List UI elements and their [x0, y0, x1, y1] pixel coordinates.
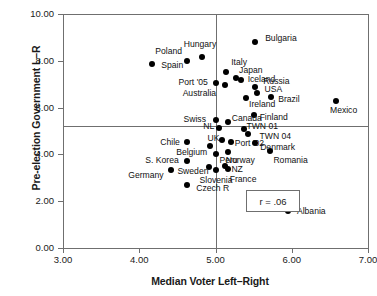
data-point — [252, 140, 258, 146]
data-point-label: Denmark — [260, 143, 295, 152]
y-axis-tick-label: 0.00 — [36, 243, 55, 253]
x-axis-tick — [292, 249, 293, 253]
data-point-label: Romania — [273, 156, 307, 165]
data-point-label: Spain — [161, 61, 183, 70]
data-point-label: Port '05 — [179, 78, 208, 87]
data-point-label: Hungary — [184, 40, 216, 49]
x-axis-tick — [368, 249, 369, 253]
x-axis-tick-label: 6.00 — [283, 255, 302, 265]
data-point-label: NZ — [231, 165, 242, 174]
data-point-label: S. Korea — [145, 156, 178, 165]
x-axis-tick-label: 5.00 — [206, 255, 225, 265]
data-point — [207, 143, 213, 149]
axis-frame-left — [63, 14, 64, 249]
data-point — [223, 69, 229, 75]
data-point — [184, 182, 190, 188]
y-axis-tick-label: 6.00 — [36, 103, 55, 113]
x-axis-tick — [139, 249, 140, 253]
y-axis-tick: 10.00 — [58, 14, 63, 15]
data-point-label: Chile — [160, 138, 180, 147]
data-point-label: Mexico — [330, 106, 357, 115]
data-point-label: Czech R — [196, 184, 229, 193]
data-point — [225, 166, 231, 172]
data-point — [267, 148, 273, 154]
data-point — [199, 54, 205, 60]
x-axis-title: Median Voter Left–Right — [48, 275, 372, 287]
data-point-label: Belgium — [176, 148, 207, 157]
data-point-label: Finland — [260, 113, 288, 122]
data-point — [168, 167, 174, 173]
data-point — [225, 119, 231, 125]
scatter-chart: Pre-election Government L–R Median Voter… — [0, 0, 377, 296]
plot-area: 0.002.004.006.008.0010.00 3.004.005.006.… — [63, 14, 369, 249]
correlation-value: r = .06 — [259, 196, 286, 207]
data-point — [252, 84, 258, 90]
vertical-reference-line — [216, 14, 217, 249]
y-axis-tick-label: 8.00 — [36, 56, 55, 66]
data-point-label: UK — [208, 134, 220, 143]
data-point — [252, 39, 258, 45]
data-point — [213, 167, 219, 173]
data-point-label: Brazil — [278, 95, 300, 104]
x-axis-tick — [63, 249, 64, 253]
data-point — [149, 61, 155, 67]
data-point-label: TWN 01 — [246, 122, 278, 131]
y-axis-tick: 8.00 — [58, 61, 63, 62]
x-axis-tick-label: 7.00 — [359, 255, 377, 265]
data-point-label: Ireland — [249, 100, 275, 109]
y-axis-tick: 4.00 — [58, 154, 63, 155]
data-point-label: USA — [264, 85, 282, 94]
data-point-label: Germany — [128, 171, 163, 180]
data-point — [333, 98, 339, 104]
data-point — [213, 80, 219, 86]
data-point-label: Australia — [183, 89, 216, 98]
data-point — [184, 139, 190, 145]
data-point — [254, 90, 260, 96]
y-axis-tick-label: 10.00 — [30, 9, 54, 19]
x-axis-tick-label: 3.00 — [54, 255, 73, 265]
data-point-label: TWN 04 — [260, 132, 292, 141]
data-point-label: Poland — [155, 47, 182, 56]
data-point-label: Bulgaria — [265, 34, 297, 43]
data-point — [213, 151, 219, 157]
axis-frame-right — [368, 14, 369, 249]
data-point — [216, 125, 222, 131]
data-point-label: Albania — [297, 207, 326, 216]
data-point — [228, 139, 234, 145]
data-point — [184, 158, 190, 164]
data-point — [245, 131, 251, 137]
data-point-label: NL — [203, 122, 214, 131]
data-point — [184, 58, 190, 64]
y-axis-tick-label: 2.00 — [36, 196, 55, 206]
data-point — [238, 77, 244, 83]
correlation-annotation-box: r = .06 — [246, 190, 300, 212]
y-axis-tick: 2.00 — [58, 201, 63, 202]
data-point-label: Japan — [239, 66, 262, 75]
data-point-label: France — [230, 175, 257, 184]
x-axis-tick-label: 4.00 — [130, 255, 149, 265]
y-axis-tick: 6.00 — [58, 108, 63, 109]
y-axis-tick-label: 4.00 — [36, 150, 55, 160]
data-point — [222, 82, 228, 88]
x-axis-tick — [216, 249, 217, 253]
